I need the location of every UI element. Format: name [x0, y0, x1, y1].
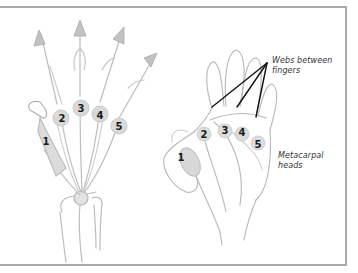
arrow-icon — [113, 27, 124, 44]
label-line: heads — [278, 161, 324, 171]
left-metacarpal-5-label: 5 — [116, 122, 123, 132]
left-metacarpal-2-label: 2 — [59, 114, 66, 124]
label-line: fingers — [272, 66, 332, 76]
left-metacarpal-4-label: 4 — [97, 111, 104, 121]
webs-pointer-lines — [212, 63, 267, 117]
arrow-icon — [74, 20, 86, 36]
right-metacarpal-2-label: 2 — [201, 130, 208, 140]
hands-illustration — [0, 0, 358, 273]
label-line: Webs between — [272, 56, 332, 66]
arrow-icon — [144, 53, 157, 67]
webs-between-fingers-label: Webs between fingers — [272, 56, 332, 76]
arrow-icon — [34, 30, 45, 46]
right-metacarpal-1-label: 1 — [178, 153, 185, 163]
right-metacarpal-4-label: 4 — [239, 128, 246, 138]
left-metacarpal-3-label: 3 — [78, 104, 85, 114]
left-hand-arrows — [34, 20, 157, 67]
right-metacarpal-5-label: 5 — [255, 140, 262, 150]
right-metacarpal-3-label: 3 — [222, 126, 229, 136]
label-line: Metacarpal — [278, 151, 324, 161]
left-metacarpal-1-label: 1 — [43, 137, 50, 147]
metacarpal-heads-label: Metacarpal heads — [278, 151, 324, 171]
